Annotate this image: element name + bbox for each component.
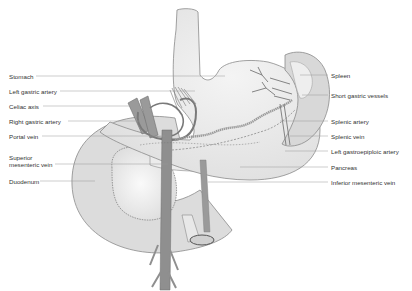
label-splenic-artery: Splenic artery — [331, 118, 369, 125]
label-superior-mesenteric-vein-line1: Superior — [9, 154, 32, 161]
label-pancreas: Pancreas — [331, 164, 357, 171]
label-stomach: Stomach — [9, 73, 33, 80]
label-portal-vein: Portal vein — [9, 133, 38, 140]
label-spleen: Spleen — [331, 72, 350, 79]
label-duodenum: Duodenum — [9, 178, 39, 185]
anatomy-illustration — [0, 0, 412, 291]
label-left-gastric-artery: Left gastric artery — [9, 88, 57, 95]
label-left-gastroepiploic-artery: Left gastroepiploic artery — [331, 148, 399, 155]
label-splenic-vein: Splenic vein — [331, 133, 364, 140]
label-right-gastric-artery: Right gastric artery — [9, 118, 61, 125]
label-short-gastric-vessels: Short gastric vessels — [331, 92, 388, 99]
label-celiac-axis: Celiac axis — [9, 103, 39, 110]
label-superior-mesenteric-vein-line2: mesenteric vein — [9, 161, 52, 168]
label-inferior-mesenteric-vein: Inferior mesenteric vein — [331, 179, 395, 186]
